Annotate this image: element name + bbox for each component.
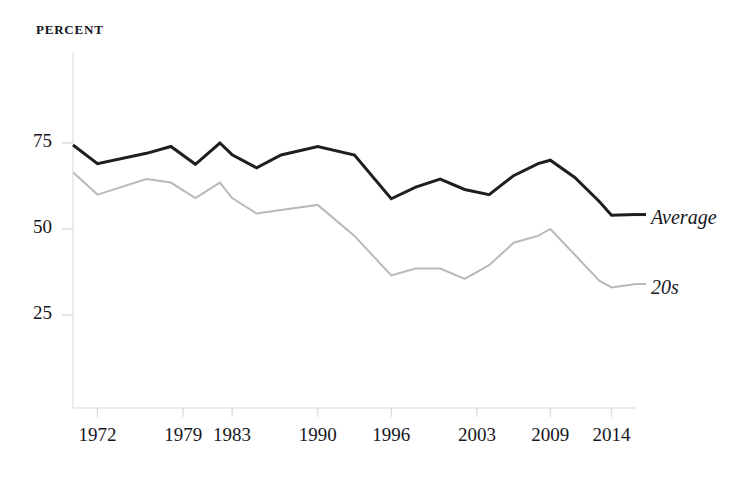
series-paths (73, 143, 636, 287)
x-tick-label-2009: 2009 (515, 424, 585, 446)
line-chart-canvas (0, 0, 736, 479)
series-line-20s (73, 172, 636, 287)
x-tick-label-1972: 1972 (62, 424, 132, 446)
x-tick-label-2014: 2014 (577, 424, 647, 446)
x-tick-label-1996: 1996 (356, 424, 426, 446)
series-line-average (73, 143, 636, 215)
y-axis-ticks (62, 143, 73, 315)
x-tick-label-1990: 1990 (283, 424, 353, 446)
y-tick-label-25: 25 (8, 302, 52, 324)
legend-line-stubs (636, 215, 646, 284)
y-tick-label-50: 50 (8, 216, 52, 238)
x-tick-label-1983: 1983 (197, 424, 267, 446)
series-label-average: Average (651, 206, 717, 229)
x-axis-ticks (97, 408, 611, 417)
chart-figure: PERCENT 255075 1972197919831990199620032… (0, 0, 736, 479)
series-label-20s: 20s (651, 276, 679, 299)
x-tick-label-2003: 2003 (442, 424, 512, 446)
y-tick-label-75: 75 (8, 130, 52, 152)
